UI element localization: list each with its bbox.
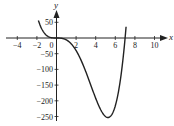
x-tick-label: 6 xyxy=(113,41,117,50)
y-axis-label: y xyxy=(53,0,58,10)
y-axis-arrow-icon xyxy=(54,10,60,18)
chart: x −4−20246810 y 50−50−100−150−200−250 xyxy=(0,0,174,126)
y-tick-label: −50 xyxy=(40,50,53,59)
y-tick-label: −100 xyxy=(36,65,53,74)
x-axis-arrow-icon xyxy=(160,35,168,41)
x-axis: x −4−20246810 xyxy=(6,32,173,50)
x-tick-label: 4 xyxy=(94,41,98,50)
y-tick-label: −150 xyxy=(36,81,53,90)
y-tick-label: 50 xyxy=(45,18,53,27)
y-tick-label: −200 xyxy=(36,97,53,106)
y-axis: y 50−50−100−150−200−250 xyxy=(36,0,59,122)
y-tick-label: −250 xyxy=(36,113,53,122)
x-tick-label: −4 xyxy=(13,41,22,50)
x-tick-label: 8 xyxy=(133,41,137,50)
x-tick-label: 10 xyxy=(151,41,159,50)
x-tick-label: 0 xyxy=(50,41,54,50)
x-axis-label: x xyxy=(168,32,173,42)
x-tick-label: −2 xyxy=(33,41,42,50)
